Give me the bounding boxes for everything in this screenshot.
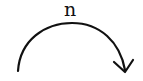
curved-arrow-icon: [0, 0, 143, 81]
